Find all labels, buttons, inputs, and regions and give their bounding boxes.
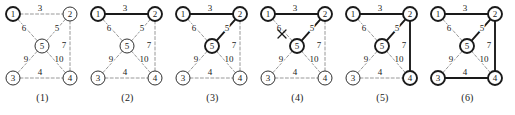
candidate-edge — [358, 19, 378, 41]
edge-weight-label: 6 — [107, 23, 112, 33]
graph-node-label: 4 — [153, 73, 158, 83]
graph-node-label: 1 — [351, 9, 356, 19]
graph-node-label: 5 — [125, 41, 130, 51]
graph-node-label: 5 — [210, 41, 215, 51]
candidate-edge — [273, 19, 293, 41]
edge-weight-label: 7 — [317, 40, 322, 50]
graph-node-label: 3 — [11, 73, 16, 83]
panel-caption: (5) — [340, 92, 425, 103]
graph-node-label: 2 — [153, 9, 158, 19]
panel-caption: (1) — [0, 92, 85, 103]
graph-node-label: 4 — [238, 73, 243, 83]
graph-node-label: 3 — [96, 73, 101, 83]
edge-weight-label: 7 — [402, 40, 407, 50]
graph-node-label: 2 — [68, 9, 73, 19]
graph-node-label: 4 — [323, 73, 328, 83]
edge-weight-label: 9 — [364, 54, 369, 64]
edge-weight-label: 5 — [480, 23, 485, 33]
edge-weight-label: 5 — [55, 23, 60, 33]
edge-weight-label: 9 — [449, 54, 454, 64]
edge-weight-label: 10 — [310, 54, 320, 64]
edge-weight-label: 10 — [480, 54, 490, 64]
graph-node-label: 1 — [436, 9, 441, 19]
graph-panel: 336655779910104412534(6) — [425, 0, 510, 115]
edge-weight-label: 6 — [192, 23, 197, 33]
edge-weight-label: 7 — [487, 40, 492, 50]
edge-weight-label: 7 — [62, 40, 67, 50]
edge-weight-label: 9 — [109, 54, 114, 64]
candidate-edge — [188, 19, 208, 41]
candidate-edge — [18, 19, 38, 41]
graph-panel: 336655779910104412534(5) — [340, 0, 425, 115]
edge-weight-label: 7 — [147, 40, 152, 50]
graph-node-label: 4 — [493, 73, 498, 83]
edge-weight-label: 4 — [378, 67, 383, 77]
edge-weight-label: 9 — [24, 54, 29, 64]
graph-panel: 336655779910104412534(2) — [85, 0, 170, 115]
graph-panel: 336655779910104412534(3) — [170, 0, 255, 115]
graph-node-label: 1 — [266, 9, 271, 19]
graph-node-label: 2 — [323, 9, 328, 19]
candidate-edge — [103, 19, 123, 41]
candidate-edge — [443, 19, 463, 41]
graph-node-label: 5 — [295, 41, 300, 51]
graph-node-label: 3 — [351, 73, 356, 83]
edge-weight-label: 5 — [310, 23, 315, 33]
graph-node-label: 5 — [380, 41, 385, 51]
panel-caption: (3) — [170, 92, 255, 103]
mst-figure: 336655779910104412534(1)3366557799101044… — [0, 0, 515, 115]
graph-node-label: 2 — [238, 9, 243, 19]
graph-node-label: 1 — [11, 9, 16, 19]
edge-weight-label: 10 — [55, 54, 65, 64]
edge-weight-label: 5 — [395, 23, 400, 33]
edge-weight-label: 5 — [140, 23, 145, 33]
edge-weight-label: 7 — [232, 40, 237, 50]
edge-weight-label: 4 — [208, 67, 213, 77]
graph-panel: 336655779910104412534(1) — [0, 0, 85, 115]
edge-weight-label: 10 — [140, 54, 150, 64]
graph-node-label: 5 — [40, 41, 45, 51]
graph-node-label: 2 — [493, 9, 498, 19]
edge-weight-label: 4 — [123, 67, 128, 77]
edge-weight-label: 3 — [378, 3, 383, 13]
edge-weight-label: 3 — [208, 3, 213, 13]
panel-caption: (4) — [255, 92, 340, 103]
graph-node-label: 3 — [181, 73, 186, 83]
panel-caption: (2) — [85, 92, 170, 103]
graph-panel: 336655779910104412534(4) — [255, 0, 340, 115]
edge-weight-label: 4 — [293, 67, 298, 77]
edge-weight-label: 9 — [279, 54, 284, 64]
graph-node-label: 4 — [408, 73, 413, 83]
graph-node-label: 3 — [436, 73, 441, 83]
panel-caption: (6) — [425, 92, 510, 103]
edge-reject-x-icon — [278, 30, 286, 38]
edge-weight-label: 4 — [463, 67, 468, 77]
edge-weight-label: 6 — [362, 23, 367, 33]
graph-node-label: 1 — [181, 9, 186, 19]
edge-weight-label: 6 — [447, 23, 452, 33]
graph-node-label: 3 — [266, 73, 271, 83]
edge-weight-label: 3 — [123, 3, 128, 13]
edge-weight-label: 5 — [225, 23, 230, 33]
edge-weight-label: 10 — [395, 54, 405, 64]
graph-node-label: 2 — [408, 9, 413, 19]
graph-node-label: 1 — [96, 9, 101, 19]
edge-weight-label: 4 — [38, 67, 43, 77]
edge-weight-label: 10 — [225, 54, 235, 64]
graph-node-label: 4 — [68, 73, 73, 83]
edge-weight-label: 3 — [463, 3, 468, 13]
edge-weight-label: 6 — [22, 23, 27, 33]
edge-weight-label: 9 — [194, 54, 199, 64]
edge-weight-label: 3 — [293, 3, 298, 13]
graph-node-label: 5 — [465, 41, 470, 51]
edge-weight-label: 3 — [38, 3, 43, 13]
